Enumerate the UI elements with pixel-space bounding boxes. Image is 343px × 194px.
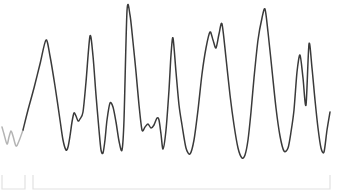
series-line-lead-segment — [2, 127, 23, 146]
series-line-main-trace — [23, 4, 330, 158]
series-group — [2, 4, 330, 158]
axis-bracket-left — [2, 175, 25, 189]
axis-bracket-main — [33, 175, 330, 189]
sparkline-chart — [0, 0, 343, 194]
chart-canvas — [0, 0, 343, 194]
axis-bracket-group — [2, 175, 330, 189]
